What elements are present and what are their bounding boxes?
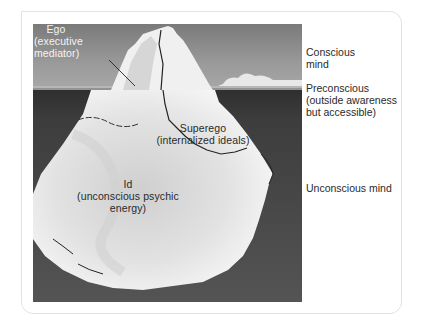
preconscious-line-1: Preconscious xyxy=(306,82,397,94)
ego-label: Ego (executive mediator) xyxy=(34,23,78,59)
unconscious-mind-label: Unconscious mind xyxy=(306,182,392,194)
superego-title: Superego xyxy=(153,122,253,134)
superego-subtitle: (internalized ideals) xyxy=(153,134,253,146)
preconscious-line-2: (outside awareness xyxy=(306,94,397,106)
preconscious-line-3: but accessible) xyxy=(306,106,397,118)
id-subtitle-2: energy) xyxy=(73,202,183,214)
unconscious-line-1: Unconscious mind xyxy=(306,182,392,194)
preconscious-label: Preconscious (outside awareness but acce… xyxy=(306,82,397,118)
ego-subtitle-2: mediator) xyxy=(34,47,78,59)
ego-subtitle-1: (executive xyxy=(34,35,78,47)
conscious-line-2: mind xyxy=(306,58,355,70)
superego-label: Superego (internalized ideals) xyxy=(153,122,253,146)
id-subtitle-1: (unconscious psychic xyxy=(73,190,183,202)
conscious-line-1: Conscious xyxy=(306,46,355,58)
conscious-mind-label: Conscious mind xyxy=(306,46,355,70)
id-title: Id xyxy=(73,178,183,190)
iceberg-illustration xyxy=(33,24,302,302)
ego-title: Ego xyxy=(34,23,78,35)
id-label: Id (unconscious psychic energy) xyxy=(73,178,183,214)
